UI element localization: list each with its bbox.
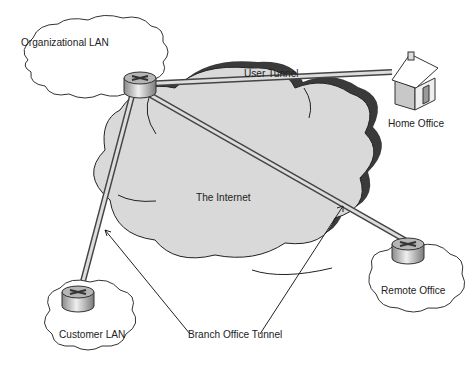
router-icon (124, 72, 156, 98)
house-icon (392, 52, 438, 110)
network-diagram: Organizational LAN User Tunnel Home Offi… (0, 0, 473, 382)
branch-tunnel-label: Branch Office Tunnel (188, 328, 282, 340)
customer-lan-label: Customer LAN (59, 328, 125, 340)
remote-office-label: Remote Office (381, 284, 446, 296)
user-tunnel-label: User Tunnel (244, 67, 299, 79)
org-lan-label: Organizational LAN (21, 36, 109, 48)
internet-label: The Internet (196, 191, 251, 203)
router-icon (392, 238, 424, 264)
router-icon (62, 286, 94, 312)
home-office-label: Home Office (388, 117, 444, 129)
